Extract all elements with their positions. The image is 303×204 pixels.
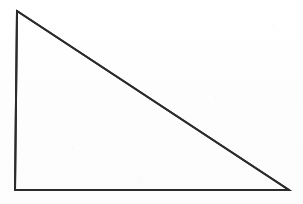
figure-canvas — [0, 0, 303, 204]
triangle-vertical-leg — [15, 11, 17, 190]
right-triangle-figure — [0, 0, 303, 204]
triangle-hypotenuse — [17, 11, 289, 190]
